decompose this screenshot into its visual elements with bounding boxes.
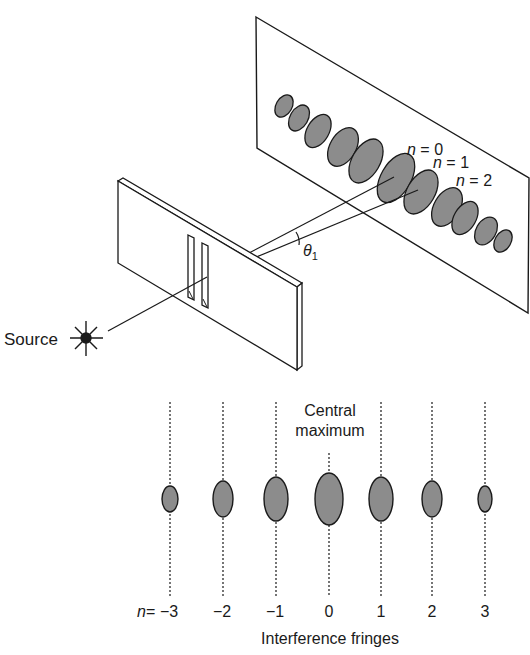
fringe-n-minus-2: [213, 481, 233, 517]
central-maximum-label-line2: maximum: [295, 422, 364, 439]
slit-left: [188, 235, 194, 300]
order-number-labels: n = −3 −2 −1 0 1 2 3: [137, 603, 490, 620]
order-number: 1: [377, 603, 386, 620]
angle-arc: [296, 232, 299, 245]
fringe-n-0: [315, 473, 343, 525]
fringe-n-2: [422, 481, 442, 517]
central-maximum-label-line1: Central: [304, 402, 356, 419]
slit-right: [202, 243, 208, 308]
angle-label: θ1: [303, 242, 318, 262]
fringe-n-minus-1: [264, 477, 288, 521]
order-number: 3: [481, 603, 490, 620]
double-slit-barrier: [118, 178, 302, 370]
order-label-2: n = 2: [456, 172, 492, 189]
order-number: −1: [266, 603, 284, 620]
fringe-n-minus-3: [162, 486, 178, 512]
order-number: −2: [213, 603, 231, 620]
order-number: −3: [160, 603, 178, 620]
order-number: 0: [325, 603, 334, 620]
star-burst-icon: [70, 321, 103, 356]
n-prefix-label: n: [137, 603, 146, 620]
double-slit-diagram: Source θ1 n = 0 n = 1 n = 2 Central maxi…: [0, 0, 530, 655]
equals-sign: =: [146, 603, 155, 620]
source-label: Source: [4, 330, 58, 349]
fringe-n-1: [369, 477, 393, 521]
order-label-1: n = 1: [433, 154, 469, 171]
fringe-n-3: [478, 486, 492, 512]
caption: Interference fringes: [261, 630, 399, 647]
order-number: 2: [428, 603, 437, 620]
bottom-fringes: [162, 473, 492, 525]
